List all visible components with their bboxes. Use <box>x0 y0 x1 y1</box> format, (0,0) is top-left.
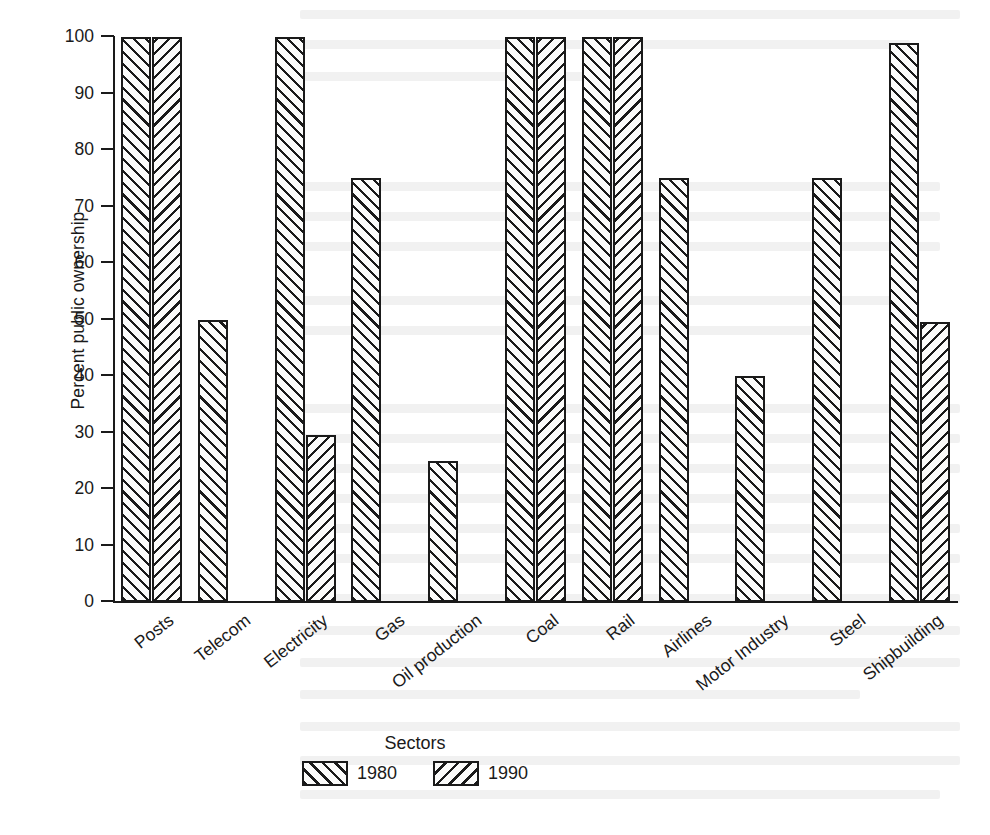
y-tick-label-30: 30 <box>48 421 94 442</box>
y-tick-label-0: 0 <box>48 591 94 612</box>
bar-posts-1990 <box>152 37 182 602</box>
legend-label-1980: 1980 <box>357 763 397 784</box>
x-category-label-coal: Coal <box>521 610 562 649</box>
x-category-label-airlines: Airlines <box>658 610 716 662</box>
x-category-label-electricity: Electricity <box>260 610 332 673</box>
y-tick-label-40: 40 <box>48 365 94 386</box>
y-tick-label-80: 80 <box>48 139 94 160</box>
bar-rail-1990 <box>613 37 643 602</box>
public-ownership-bar-chart: Percent public ownership 100908070605040… <box>0 0 990 835</box>
bar-motor-industry-1980 <box>735 376 765 602</box>
bar-shipbuilding-1980 <box>889 43 919 602</box>
bar-posts-1980 <box>121 37 151 602</box>
bar-rail-1980 <box>582 37 612 602</box>
x-category-label-telecom: Telecom <box>191 610 255 667</box>
bar-electricity-1990 <box>306 435 336 602</box>
bar-coal-1980 <box>505 37 535 602</box>
bars-layer <box>113 36 958 602</box>
legend-label-1990: 1990 <box>488 763 528 784</box>
y-tick-label-60: 60 <box>48 252 94 273</box>
y-tick-label-10: 10 <box>48 534 94 555</box>
y-tick-label-90: 90 <box>48 82 94 103</box>
x-category-label-posts: Posts <box>131 610 178 654</box>
bar-shipbuilding-1990 <box>920 322 950 602</box>
x-category-label-shipbuilding: Shipbuilding <box>858 610 946 685</box>
backward-diagonal-hatch-swatch <box>433 761 479 786</box>
chart-legend: Sectors 19801990 <box>0 733 830 786</box>
legend-entry-1980: 1980 <box>302 761 397 786</box>
bar-steel-1980 <box>812 178 842 602</box>
x-axis-title: Sectors <box>0 733 830 754</box>
forward-diagonal-hatch-swatch <box>302 761 348 786</box>
y-tick-label-20: 20 <box>48 478 94 499</box>
legend-entry-1990: 1990 <box>433 761 528 786</box>
legend-entries: 19801990 <box>0 761 830 786</box>
plot-area: Percent public ownership 100908070605040… <box>0 0 990 835</box>
bar-electricity-1980 <box>275 37 305 602</box>
x-category-label-gas: Gas <box>371 610 409 646</box>
bar-coal-1990 <box>536 37 566 602</box>
bar-oil-production-1980 <box>428 461 458 602</box>
y-tick-label-50: 50 <box>48 308 94 329</box>
y-tick-label-100: 100 <box>48 26 94 47</box>
y-tick-label-70: 70 <box>48 195 94 216</box>
bar-airlines-1980 <box>659 178 689 602</box>
x-category-label-rail: Rail <box>603 610 640 645</box>
bar-gas-1980 <box>351 178 381 602</box>
bar-telecom-1980 <box>198 320 228 603</box>
x-category-label-steel: Steel <box>825 610 869 651</box>
